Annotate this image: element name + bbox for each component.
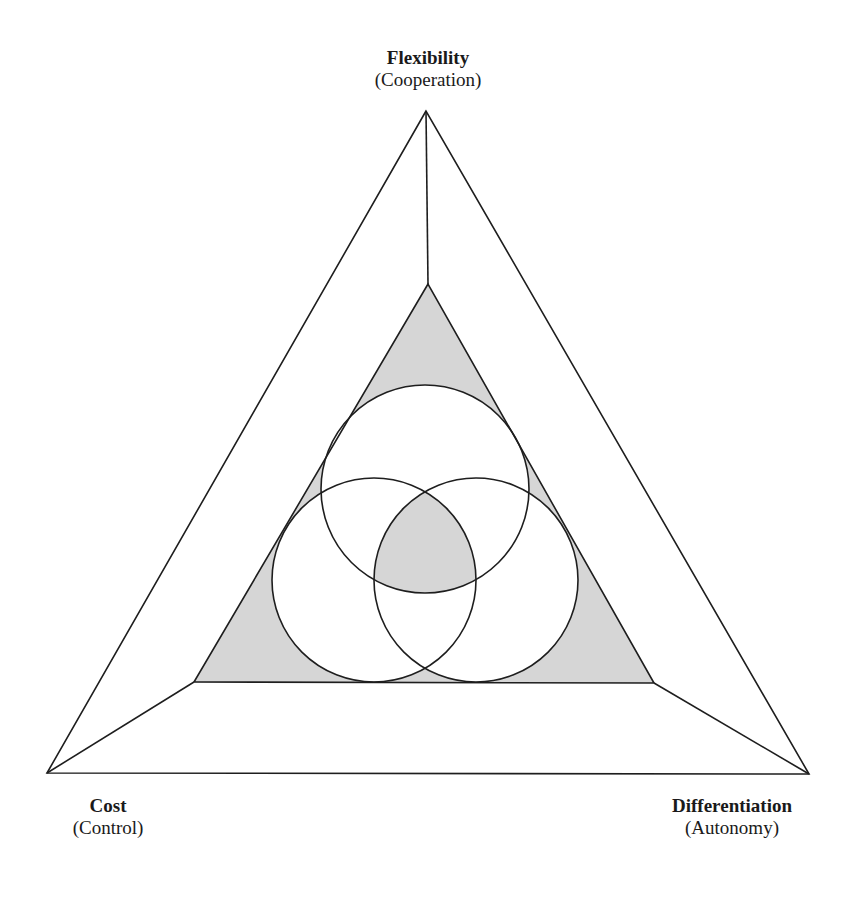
label-bottom-right-title: Differentiation <box>672 795 792 817</box>
label-top-title: Flexibility <box>375 47 482 69</box>
label-bottom-left-title: Cost <box>73 795 144 817</box>
label-top: Flexibility (Cooperation) <box>375 47 482 91</box>
label-bottom-right: Differentiation (Autonomy) <box>672 795 792 839</box>
label-top-subtitle: (Cooperation) <box>375 69 482 91</box>
label-bottom-right-subtitle: (Autonomy) <box>672 817 792 839</box>
label-bottom-left-subtitle: (Control) <box>73 817 144 839</box>
triangle-diagram <box>0 0 854 900</box>
label-bottom-left: Cost (Control) <box>73 795 144 839</box>
